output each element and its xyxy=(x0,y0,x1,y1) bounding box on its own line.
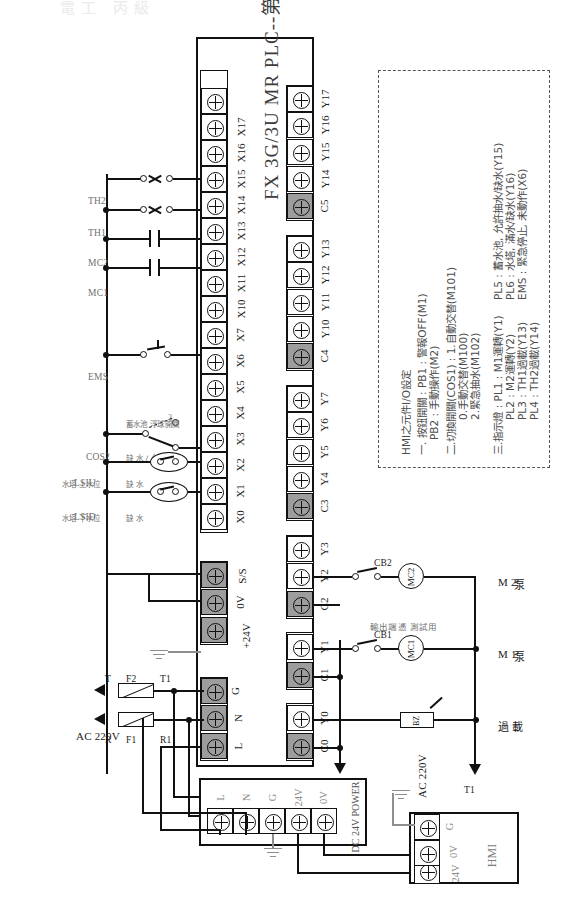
bus-R1-down xyxy=(188,719,190,817)
terminal-X16[interactable] xyxy=(201,140,227,166)
terminal-Y2[interactable] xyxy=(287,563,313,589)
terminal-label-C0: C0 xyxy=(318,737,330,755)
terminal-X2[interactable] xyxy=(201,452,227,478)
terminal-Y12[interactable] xyxy=(287,262,313,288)
label-lsiu-desc-top: 水塔 上水位 xyxy=(62,478,101,489)
hmi-label-0V: 0V xyxy=(448,841,459,863)
terminal-label-Y3: Y3 xyxy=(318,540,330,558)
terminal-label-SS: S/S xyxy=(236,565,248,587)
wire-th1-r xyxy=(173,209,201,211)
terminal-label-C5: C5 xyxy=(318,197,330,215)
terminal-Y16[interactable] xyxy=(287,112,313,138)
terminal-label-Y4: Y4 xyxy=(318,470,330,488)
terminal-C5[interactable] xyxy=(287,193,313,219)
terminal-Y11[interactable] xyxy=(287,289,313,315)
bus-out-R1 xyxy=(339,640,341,765)
junction-c1 xyxy=(337,674,343,680)
label-lsid-desc-top: 水塔 下水位 xyxy=(62,512,101,523)
terminal-0V[interactable] xyxy=(201,589,227,615)
psu-terminal-0V[interactable] xyxy=(311,808,337,834)
terminal-C2[interactable] xyxy=(287,591,313,617)
terminal-X-spare1[interactable] xyxy=(201,88,227,114)
terminal-X12[interactable] xyxy=(201,244,227,270)
wire-psu-N-up xyxy=(245,812,247,835)
terminal-L[interactable] xyxy=(201,733,227,759)
wire-lsid xyxy=(106,491,150,493)
terminal-C4[interactable] xyxy=(287,343,313,369)
terminal-X11[interactable] xyxy=(201,270,227,296)
ems-contact-left xyxy=(140,351,147,358)
terminal-label-X17: X17 xyxy=(235,116,247,138)
junction-mc2 xyxy=(103,236,109,242)
hmi-terminal-0V[interactable] xyxy=(414,840,440,866)
terminal-X14[interactable] xyxy=(201,192,227,218)
terminal-X3[interactable] xyxy=(201,426,227,452)
wire-cos2-r xyxy=(179,447,201,449)
terminal-Y6[interactable] xyxy=(287,412,313,438)
terminal-X6[interactable] xyxy=(201,348,227,374)
terminal-Y0[interactable] xyxy=(287,705,313,731)
terminal-label-X3: X3 xyxy=(234,430,246,448)
terminal-Y10[interactable] xyxy=(287,316,313,342)
terminal-X15[interactable] xyxy=(201,166,227,192)
terminal-Y3[interactable] xyxy=(287,536,313,562)
coil-MC2: MC2 xyxy=(398,563,424,589)
terminal-Y4[interactable] xyxy=(287,466,313,492)
terminal-SS[interactable] xyxy=(201,562,227,588)
cos2-blade xyxy=(148,436,173,447)
junction-ems xyxy=(103,352,109,358)
cb2-contact-left xyxy=(352,573,359,580)
terminal-label-Y16: Y16 xyxy=(319,114,331,136)
mc2-plate-a xyxy=(149,230,151,247)
ems-blade xyxy=(147,345,165,350)
terminal-X0[interactable] xyxy=(201,504,227,530)
terminal-X10[interactable] xyxy=(201,296,227,322)
terminal-X4[interactable] xyxy=(201,400,227,426)
wire-th2-r xyxy=(173,178,201,180)
terminal-C1[interactable] xyxy=(287,662,313,688)
wire-psu-L xyxy=(160,829,220,831)
terminal-X7[interactable] xyxy=(201,322,227,348)
terminal-Y7[interactable] xyxy=(287,386,313,412)
terminal-label-L: L xyxy=(232,739,244,753)
label-F2: F2 xyxy=(126,674,136,684)
terminal-label-G: G xyxy=(229,687,241,695)
terminal-X13[interactable] xyxy=(201,218,227,244)
terminal-C3[interactable] xyxy=(287,493,313,519)
buzzer-BZ: BZ xyxy=(400,712,434,728)
wire-psu-24v-to-hmi xyxy=(297,872,414,874)
label-CB2: CB2 xyxy=(374,558,392,568)
terminal-Y1[interactable] xyxy=(287,634,313,660)
terminal-label-C1: C1 xyxy=(318,666,330,684)
junction-mc1 xyxy=(103,265,109,271)
ems-contact-right xyxy=(164,351,171,358)
terminal-N[interactable] xyxy=(201,705,227,731)
terminal-Y15[interactable] xyxy=(287,139,313,165)
terminal-X5[interactable] xyxy=(201,374,227,400)
fuse-F1 xyxy=(118,712,154,727)
terminal-G[interactable] xyxy=(201,678,227,704)
terminal-Y5[interactable] xyxy=(287,439,313,465)
label-output-ac-source: AC 220V xyxy=(400,770,444,782)
wire-bz-out xyxy=(434,719,476,721)
terminal-label-X6: X6 xyxy=(234,352,246,370)
terminal-X17[interactable] xyxy=(201,114,227,140)
hmi-title: HMI xyxy=(485,834,500,878)
terminal-24V[interactable] xyxy=(201,617,227,643)
terminal-C0[interactable] xyxy=(287,733,313,759)
wire-psu-0v-to-hmi xyxy=(323,854,414,856)
psu-label-L: L xyxy=(215,791,226,805)
terminal-Y17[interactable] xyxy=(287,86,313,112)
label-ac-220v-source: AC 220V xyxy=(76,730,120,742)
psu-terminal-24V[interactable] xyxy=(285,808,311,834)
terminal-X1[interactable] xyxy=(201,478,227,504)
junction-lsiu xyxy=(103,459,109,465)
psu-label-N: N xyxy=(241,791,252,805)
hmi-terminal-G[interactable] xyxy=(414,814,440,840)
terminal-Y13[interactable] xyxy=(287,236,313,262)
terminal-Y14[interactable] xyxy=(287,166,313,192)
psu-terminal-G[interactable] xyxy=(259,808,285,834)
wire-y1 xyxy=(314,648,352,650)
note-line-5: 2.緊急抽水(M102) xyxy=(467,333,482,420)
label-M1-sub: 泵 xyxy=(514,648,525,664)
